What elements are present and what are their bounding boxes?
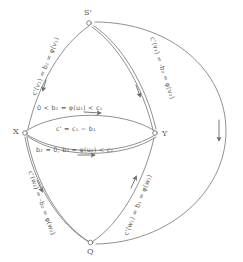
edge-q-to-y [92,138,154,242]
edge-s-to-x [28,26,89,129]
node-label-q: Q [87,248,94,256]
outer-return-arc [95,22,226,244]
edge-s-to-y [92,26,156,130]
edge-x-to-y-upper [26,112,155,131]
diagram-canvas: S' X Y Q c'(v₁) = b₁ = φ(v₁) c'(v₂) = -b… [0,0,243,262]
diagram-svg [0,0,243,262]
node-y [153,131,158,136]
node-label-x: X [13,128,19,136]
node-label-y: Y [162,130,167,138]
node-q [88,240,93,245]
node-x [23,131,28,136]
edge-x-to-y-lower [26,134,156,155]
node-label-s: S' [84,9,92,17]
node-s [87,21,92,26]
